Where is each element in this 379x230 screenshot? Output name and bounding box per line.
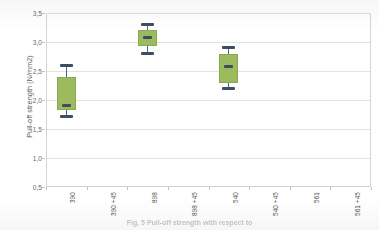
lower-whisker-cap — [222, 87, 235, 90]
box-iqr — [219, 54, 238, 83]
box-plot-series — [0, 0, 379, 230]
median-marker — [224, 65, 233, 68]
upper-whisker-cap — [222, 46, 235, 49]
box-plot-figure: Pull-off strength (N/mm2) 3,53,02,52,01,… — [0, 0, 379, 230]
